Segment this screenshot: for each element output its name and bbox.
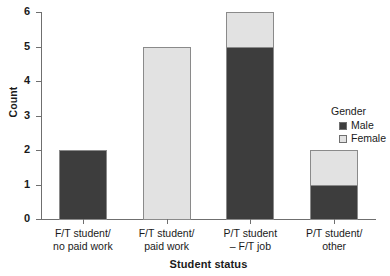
x-axis-tick <box>167 219 168 224</box>
x-axis-tick-label: F/T student/paid work <box>125 227 209 253</box>
y-axis-tick <box>36 47 41 48</box>
y-axis-tick-label: 6 <box>4 6 30 17</box>
legend-swatch-icon <box>339 122 347 130</box>
bar-segment <box>226 12 274 48</box>
y-axis-tick <box>36 185 41 186</box>
legend-title: Gender <box>331 105 386 118</box>
legend-item-label: Female <box>351 132 386 145</box>
y-axis-tick-label: 2 <box>4 144 30 155</box>
y-axis-tick-label: 0 <box>4 213 30 224</box>
bar-segment <box>143 47 191 221</box>
y-axis-tick <box>36 219 41 220</box>
x-axis-title: Student status <box>41 258 376 270</box>
y-axis-tick-label: 3 <box>4 110 30 121</box>
bar-segment <box>310 150 358 186</box>
y-axis-tick-label: 4 <box>4 75 30 86</box>
x-axis-tick <box>334 219 335 224</box>
legend-item: Male <box>339 119 386 132</box>
bar-segment <box>310 185 358 221</box>
y-axis-tick <box>36 81 41 82</box>
y-axis-tick <box>36 116 41 117</box>
bar-segment <box>226 47 274 221</box>
y-axis-tick <box>36 150 41 151</box>
y-axis-tick <box>36 12 41 13</box>
x-axis-tick-label: F/T student/no paid work <box>41 227 125 253</box>
y-axis-tick-label: 5 <box>4 41 30 52</box>
legend-entries: MaleFemale <box>331 119 386 145</box>
x-axis-tick-label: P/T student– F/T job <box>209 227 293 253</box>
legend-swatch-icon <box>339 135 347 143</box>
bar-chart: Count 0123456 F/T student/no paid workF/… <box>0 0 390 276</box>
x-axis-tick <box>250 219 251 224</box>
x-axis-tick-label: P/T student/other <box>292 227 376 253</box>
legend-item: Female <box>339 132 386 145</box>
x-axis-tick <box>83 219 84 224</box>
legend: Gender MaleFemale <box>331 105 386 145</box>
legend-item-label: Male <box>351 119 374 132</box>
bar-segment <box>59 150 107 220</box>
y-axis-line <box>41 12 42 219</box>
y-axis-tick-label: 1 <box>4 179 30 190</box>
